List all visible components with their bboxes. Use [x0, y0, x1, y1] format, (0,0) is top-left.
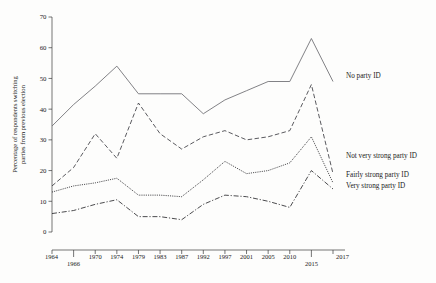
series-label-very-strong-party-id: Very strong party ID: [346, 182, 405, 190]
y-tick-label: 40: [40, 106, 47, 113]
line-chart-svg: 010203040506070Percentage of respondents…: [0, 0, 436, 283]
y-axis-title-line: parties from previous election: [19, 84, 26, 164]
x-tick-label: 2017: [336, 253, 350, 260]
y-tick-label: 60: [40, 44, 47, 51]
x-tick-label: 1979: [132, 253, 145, 260]
series-line-fairly-strong-party-id: [52, 137, 333, 197]
series-line-not-very-strong-party-id: [52, 85, 333, 186]
y-tick-label: 50: [40, 75, 47, 82]
x-tick-label: 1992: [197, 253, 210, 260]
series-line-very-strong-party-id: [52, 171, 333, 220]
x-tick-label: 1974: [110, 253, 124, 260]
y-tick-label: 70: [40, 13, 47, 20]
series-label-no-party-id: No party ID: [346, 72, 381, 80]
x-tick-label: 1970: [89, 253, 102, 260]
x-tick-label: 1964: [45, 253, 59, 260]
y-tick-label: 0: [43, 228, 47, 235]
chart-figure: 010203040506070Percentage of respondents…: [0, 0, 436, 283]
series-label-not-very-strong-party-id: Not very strong party ID: [346, 152, 417, 160]
y-tick-label: 20: [40, 167, 47, 174]
x-tick-label: 1966: [67, 260, 81, 267]
x-tick-label: 1983: [154, 253, 167, 260]
x-tick-label: 2010: [283, 253, 296, 260]
x-tick-label: 2015: [305, 260, 318, 267]
y-tick-label: 30: [40, 136, 47, 143]
x-tick-label: 2005: [262, 253, 275, 260]
y-axis-title-line: Percentage of respondents switching: [11, 76, 18, 173]
series-line-no-party-id: [52, 39, 333, 127]
x-tick-label: 1997: [218, 253, 232, 260]
x-tick-label: 1987: [175, 253, 189, 260]
y-tick-label: 10: [40, 198, 47, 205]
x-tick-label: 2001: [240, 253, 253, 260]
series-label-fairly-strong-party-id: Fairly strong party ID: [346, 171, 409, 179]
